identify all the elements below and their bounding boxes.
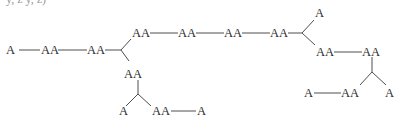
node-aa: AA	[316, 45, 334, 59]
node-aa: AA	[124, 67, 142, 81]
node-aa: AA	[224, 26, 242, 40]
nodes: A AA AA AA AA AA AA A AA AA A AA A AA A …	[6, 6, 394, 118]
node-a: A	[385, 86, 394, 100]
bond	[121, 39, 131, 50]
node-aa: AA	[41, 43, 59, 57]
node-a: A	[6, 43, 15, 57]
node-aa: AA	[341, 86, 359, 100]
node-aa: AA	[132, 26, 150, 40]
bond	[138, 94, 151, 106]
bond	[360, 72, 372, 85]
node-a: A	[315, 6, 324, 20]
node-aa: AA	[362, 45, 380, 59]
node-aa: AA	[87, 43, 105, 57]
node-a: A	[304, 86, 313, 100]
node-aa: AA	[270, 26, 288, 40]
node-a: A	[197, 104, 206, 118]
bonds	[19, 20, 386, 111]
bond	[121, 50, 129, 61]
node-aa: AA	[178, 26, 196, 40]
node-aa: AA	[152, 104, 170, 118]
tree-diagram: y, z y, z)	[0, 0, 402, 128]
bond	[302, 33, 315, 45]
bond	[302, 20, 314, 33]
clipped-caption: y, z y, z)	[6, 0, 46, 6]
bond	[372, 72, 386, 85]
node-a: A	[119, 104, 128, 118]
diagram-canvas: y, z y, z)	[0, 0, 402, 128]
